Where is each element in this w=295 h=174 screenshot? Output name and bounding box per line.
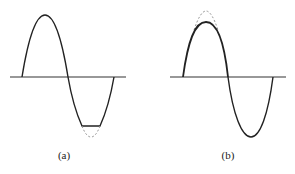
panel-a-dashed-original-trough bbox=[82, 126, 100, 137]
panel-b bbox=[170, 11, 286, 137]
panel-b-negative-half bbox=[228, 77, 273, 137]
waveform-figure bbox=[0, 0, 295, 174]
caption-b: (b) bbox=[222, 149, 235, 161]
panel-a-positive-half bbox=[22, 15, 68, 77]
panel-a-negative-half-clipped bbox=[68, 77, 114, 126]
panel-a bbox=[10, 15, 126, 137]
caption-a: (a) bbox=[58, 149, 70, 161]
panel-b-positive-half-compressed bbox=[183, 22, 228, 77]
